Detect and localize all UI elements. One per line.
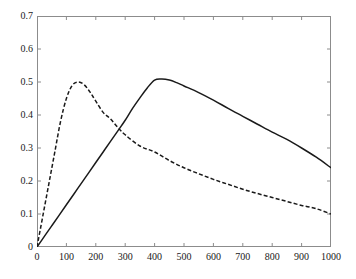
y-tick-label: 0.1 [21, 209, 34, 219]
y-tick-label: 0.4 [21, 110, 34, 120]
y-tick-label: 0.6 [21, 44, 34, 54]
y-tick-label: 0.3 [21, 143, 34, 153]
x-tick-label: 1000 [311, 252, 351, 262]
dashed-curve-path [37, 82, 331, 247]
solid-curve-path [37, 79, 331, 247]
curve-canvas [37, 16, 331, 247]
tick-marks [37, 16, 331, 247]
y-tick-label: 0 [28, 242, 33, 252]
y-tick-label: 0.7 [21, 11, 34, 21]
figure-container: 00.10.20.30.40.50.60.7 01002003004005006… [0, 0, 356, 279]
y-tick-label: 0.5 [21, 77, 34, 87]
y-tick-label: 0.2 [21, 176, 34, 186]
